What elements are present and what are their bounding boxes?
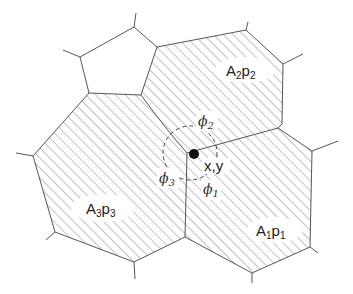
region-a1: [185, 128, 312, 273]
junction-label: x,y: [204, 157, 224, 174]
junction-point: [189, 149, 199, 159]
diagram-canvas: A2p2 A3p3 A1p1 x,y ϕ2 ϕ3 ϕ1: [0, 0, 353, 294]
